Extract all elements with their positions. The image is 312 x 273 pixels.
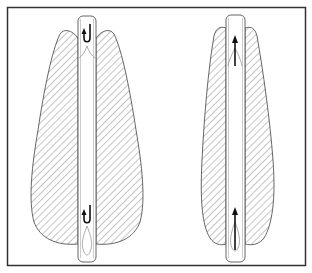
diagram-canvas: [0, 0, 312, 273]
